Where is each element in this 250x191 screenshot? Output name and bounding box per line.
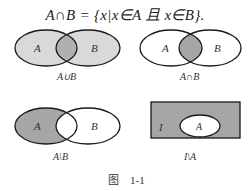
complement-venn-diagram: I A I\A — [151, 102, 240, 162]
figure-caption-prefix: 图 — [108, 174, 119, 186]
difference-venn-diagram: A B A\B — [15, 108, 120, 162]
set-b-label: B — [91, 120, 98, 132]
figure-caption-number: 1-1 — [130, 174, 145, 186]
set-a-label: A — [33, 120, 41, 132]
venn-diagrams-figure: A B A∪B A B A∩B A B A\B I A I\A 图 1-1 — [0, 0, 250, 191]
set-a-label: A — [195, 121, 203, 132]
set-b-label: B — [91, 42, 98, 54]
set-b-label: B — [214, 42, 221, 54]
intersection-venn-diagram: A B A∩B — [140, 30, 241, 82]
intersection-caption: A∩B — [179, 71, 199, 82]
set-a-label: A — [33, 42, 41, 54]
set-a-label: A — [161, 42, 169, 54]
union-caption: A∪B — [56, 71, 76, 82]
union-venn-diagram: A B A∪B — [15, 30, 120, 82]
difference-caption: A\B — [52, 151, 68, 162]
complement-caption: I\A — [183, 151, 197, 162]
